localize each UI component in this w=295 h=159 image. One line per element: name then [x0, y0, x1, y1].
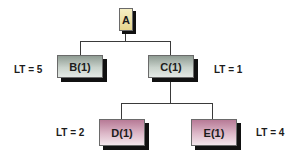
connector-to-b	[80, 41, 81, 55]
node-b: B(1)	[57, 55, 103, 78]
node-d: D(1)	[99, 119, 145, 146]
lead-time-b: LT = 5	[14, 64, 42, 75]
lead-time-e: LT = 4	[256, 127, 284, 138]
connector-to-d	[121, 103, 122, 119]
lead-time-d: LT = 2	[56, 127, 84, 138]
connector-to-c	[170, 41, 171, 55]
node-c: C(1)	[148, 55, 194, 78]
connector-level2-bar	[121, 103, 213, 104]
connector-level1-bar	[80, 41, 171, 42]
connector-to-e	[212, 103, 213, 119]
node-e: E(1)	[191, 119, 237, 146]
lead-time-c: LT = 1	[214, 64, 242, 75]
connector-c-stem	[170, 77, 171, 104]
node-a: A	[119, 8, 133, 31]
